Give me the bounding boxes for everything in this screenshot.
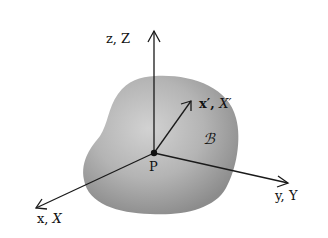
x-prime-cap-text: X′ [219, 96, 231, 111]
point-label: P [149, 160, 158, 173]
x-axis-label: x, X [37, 212, 62, 225]
z-axis-label: z, Z [106, 32, 130, 45]
y-axis-label: y, Y [275, 189, 297, 202]
body-label: ℬ [203, 132, 215, 147]
x-axis-low-text: x, [37, 211, 48, 226]
x-axis-cap-text: X [53, 211, 62, 226]
x-prime-low-text: x′, [199, 96, 215, 111]
diagram-canvas: z, Z x′, X′ ℬ P x, X y, Y [0, 0, 328, 238]
z-axis-label-text: z, Z [106, 31, 130, 46]
x-prime-axis-label: x′, X′ [199, 97, 231, 110]
origin-point-dot [151, 150, 157, 156]
